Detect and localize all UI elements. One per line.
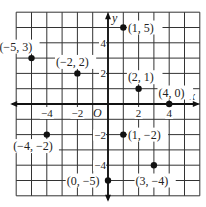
- point-marker: [120, 24, 126, 30]
- y-axis-up-arrow-icon: [105, 12, 111, 19]
- point-marker: [28, 55, 34, 61]
- point-marker: [105, 177, 111, 183]
- point-marker: [135, 86, 141, 92]
- point-label: (−2, 2): [56, 55, 89, 69]
- point-marker: [44, 131, 50, 137]
- y-tick-label: 2: [101, 67, 107, 79]
- y-axis-down-arrow-icon: [105, 195, 111, 202]
- y-tick-label: −2: [94, 129, 106, 141]
- point-marker: [120, 131, 126, 137]
- y-axis-label: y: [111, 11, 118, 25]
- x-tick-label: 2: [136, 107, 142, 119]
- point-label: (1, 5): [128, 21, 154, 35]
- point-label: (3, −4): [136, 174, 169, 188]
- point-marker: [74, 70, 80, 76]
- y-tick-label: −4: [94, 159, 106, 171]
- x-tick-label: −2: [72, 107, 84, 119]
- y-tick-label: 4: [101, 37, 107, 49]
- point-label: (−4, −2): [13, 139, 53, 153]
- point-label: (1, −2): [128, 128, 161, 142]
- x-tick-label: −4: [41, 107, 53, 119]
- x-axis-left-arrow-icon: [10, 101, 17, 107]
- x-tick-label: 4: [166, 107, 172, 119]
- point-marker: [151, 162, 157, 168]
- point-label: (4, 0): [158, 86, 184, 100]
- point-label: (−5, 3): [0, 40, 32, 54]
- point-label: (2, 1): [128, 70, 154, 84]
- point-marker: [166, 101, 172, 107]
- origin-label: O: [93, 106, 102, 120]
- coordinate-plane: xyO −4−22442−2−4 (−5, 3)(−2, 2)(1, 5)(2,…: [0, 0, 206, 207]
- point-label: (0, −5): [67, 174, 100, 188]
